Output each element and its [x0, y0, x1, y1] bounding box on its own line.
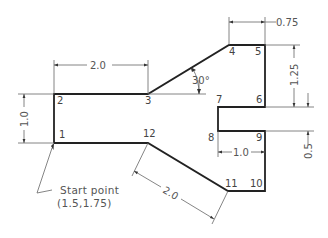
- dimension-angle: 30°: [148, 67, 210, 94]
- dimension-top-right-width: 0.75: [229, 17, 298, 45]
- dimension-text-notch-width: 1.0: [233, 147, 249, 158]
- dimension-diagonal-length: 2.0: [132, 143, 228, 224]
- start-point-coordinates: (1.5,1.75): [57, 197, 112, 209]
- vertex-label-6: 6: [256, 94, 262, 105]
- vertex-label-10: 10: [250, 178, 263, 189]
- dimension-text-angle: 30°: [192, 75, 210, 86]
- vertex-label-4: 4: [229, 46, 235, 57]
- vertex-label-7: 7: [216, 94, 222, 105]
- dimension-right-height: 1.25: [265, 45, 314, 107]
- vertex-label-3: 3: [145, 95, 151, 106]
- dimension-text-diagonal-length: 2.0: [161, 184, 180, 202]
- dimension-text-notch-height: 0.5: [303, 143, 314, 159]
- dimension-text-left-height: 1.0: [19, 111, 30, 127]
- vertex-label-9: 9: [256, 132, 262, 143]
- vertex-labels: 1 2 3 4 5 6 7 8 9 10 11 12: [57, 46, 263, 189]
- part-outline: [54, 45, 265, 191]
- vertex-label-1: 1: [59, 129, 65, 140]
- dimension-text-top-width: 2.0: [90, 60, 106, 71]
- dimension-notch-height: 0.5: [265, 93, 314, 159]
- dimension-left-height: 1.0: [18, 94, 54, 143]
- vertex-label-12: 12: [143, 128, 156, 139]
- start-point-label: Start point: [60, 184, 119, 196]
- vertex-label-5: 5: [255, 46, 261, 57]
- dimension-text-top-right-width: 0.75: [276, 17, 298, 28]
- dimension-text-right-height: 1.25: [289, 64, 300, 86]
- drawing-canvas: 1 2 3 4 5 6 7 8 9 10 11 12 2.0 1.0 30°: [0, 0, 328, 238]
- start-point-callout: Start point (1.5,1.75): [37, 143, 119, 209]
- vertex-label-11: 11: [225, 178, 238, 189]
- vertex-label-2: 2: [57, 95, 63, 106]
- dimension-top-width: 2.0: [54, 60, 148, 94]
- vertex-label-8: 8: [208, 132, 214, 143]
